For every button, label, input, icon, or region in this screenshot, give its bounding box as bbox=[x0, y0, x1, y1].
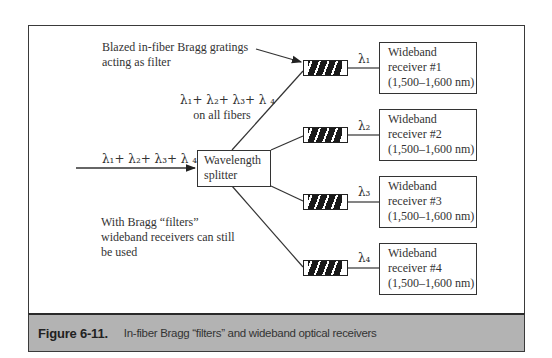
fiber-to-grating-4 bbox=[232, 186, 303, 267]
fiber-to-grating-2 bbox=[271, 136, 303, 150]
all-fibers-annotation: λ₁+ λ₂+ λ₃+ λ ₄ on all fibers bbox=[180, 93, 264, 123]
lambda-1-label: λ₁ bbox=[358, 52, 370, 67]
bragg-grating-3-icon bbox=[303, 194, 348, 210]
receiver-2-range: (1,500–1,600 nm) bbox=[388, 142, 476, 157]
gratings-annotation-line1: Blazed in-fiber Bragg gratings bbox=[102, 40, 248, 55]
splitter-label-line2: splitter bbox=[204, 168, 270, 183]
lambda-4-label: λ₄ bbox=[358, 251, 370, 266]
figure-caption: In-fiber Bragg “filters” and wideband op… bbox=[124, 327, 377, 339]
lambda-2-label: λ₂ bbox=[358, 119, 370, 134]
receiver-4-range: (1,500–1,600 nm) bbox=[388, 276, 476, 291]
receiver-1-line2: receiver #1 bbox=[388, 60, 476, 75]
receiver-2-line1: Wideband bbox=[388, 112, 476, 127]
receiver-1-range: (1,500–1,600 nm) bbox=[388, 75, 476, 90]
gratings-annotation-arrow bbox=[256, 49, 301, 62]
figure-number: Figure 6-11. bbox=[38, 326, 108, 341]
bragg-note-line2: wideband receivers can still bbox=[101, 230, 235, 245]
receiver-3-range: (1,500–1,600 nm) bbox=[388, 209, 476, 224]
bragg-note: With Bragg “filters” wideband receivers … bbox=[101, 215, 235, 260]
all-fibers-label: on all fibers bbox=[180, 108, 264, 123]
input-wavelength-sum-label: λ₁+ λ₂+ λ₃+ λ ₄ bbox=[102, 152, 197, 167]
receiver-3-line1: Wideband bbox=[388, 179, 476, 194]
wavelength-sum-label: λ₁+ λ₂+ λ₃+ λ ₄ bbox=[180, 93, 264, 108]
fiber-to-grating-3 bbox=[271, 186, 303, 201]
splitter-label-line1: Wavelength bbox=[204, 153, 270, 168]
figure-caption-bar: Figure 6-11. In-fiber Bragg “filters” an… bbox=[28, 313, 525, 352]
receiver-4-box: Wideband receiver #4 (1,500–1,600 nm) bbox=[379, 243, 477, 295]
receiver-2-box: Wideband receiver #2 (1,500–1,600 nm) bbox=[379, 109, 477, 161]
receiver-4-line1: Wideband bbox=[388, 246, 476, 261]
receiver-3-line2: receiver #3 bbox=[388, 194, 476, 209]
gratings-annotation-line2: acting as filter bbox=[102, 55, 248, 70]
receiver-1-line1: Wideband bbox=[388, 45, 476, 60]
wavelength-splitter-box: Wavelength splitter bbox=[197, 150, 271, 187]
bragg-note-line1: With Bragg “filters” bbox=[101, 215, 235, 230]
receiver-1-box: Wideband receiver #1 (1,500–1,600 nm) bbox=[379, 42, 477, 94]
bragg-grating-4-icon bbox=[303, 260, 348, 276]
bragg-grating-1-icon bbox=[303, 60, 348, 76]
bragg-note-line3: be used bbox=[101, 245, 235, 260]
receiver-4-line2: receiver #4 bbox=[388, 261, 476, 276]
bragg-grating-2-icon bbox=[303, 127, 348, 143]
lambda-3-label: λ₃ bbox=[358, 185, 370, 200]
receiver-3-box: Wideband receiver #3 (1,500–1,600 nm) bbox=[379, 176, 477, 228]
receiver-2-line2: receiver #2 bbox=[388, 127, 476, 142]
gratings-annotation: Blazed in-fiber Bragg gratings acting as… bbox=[102, 40, 248, 70]
